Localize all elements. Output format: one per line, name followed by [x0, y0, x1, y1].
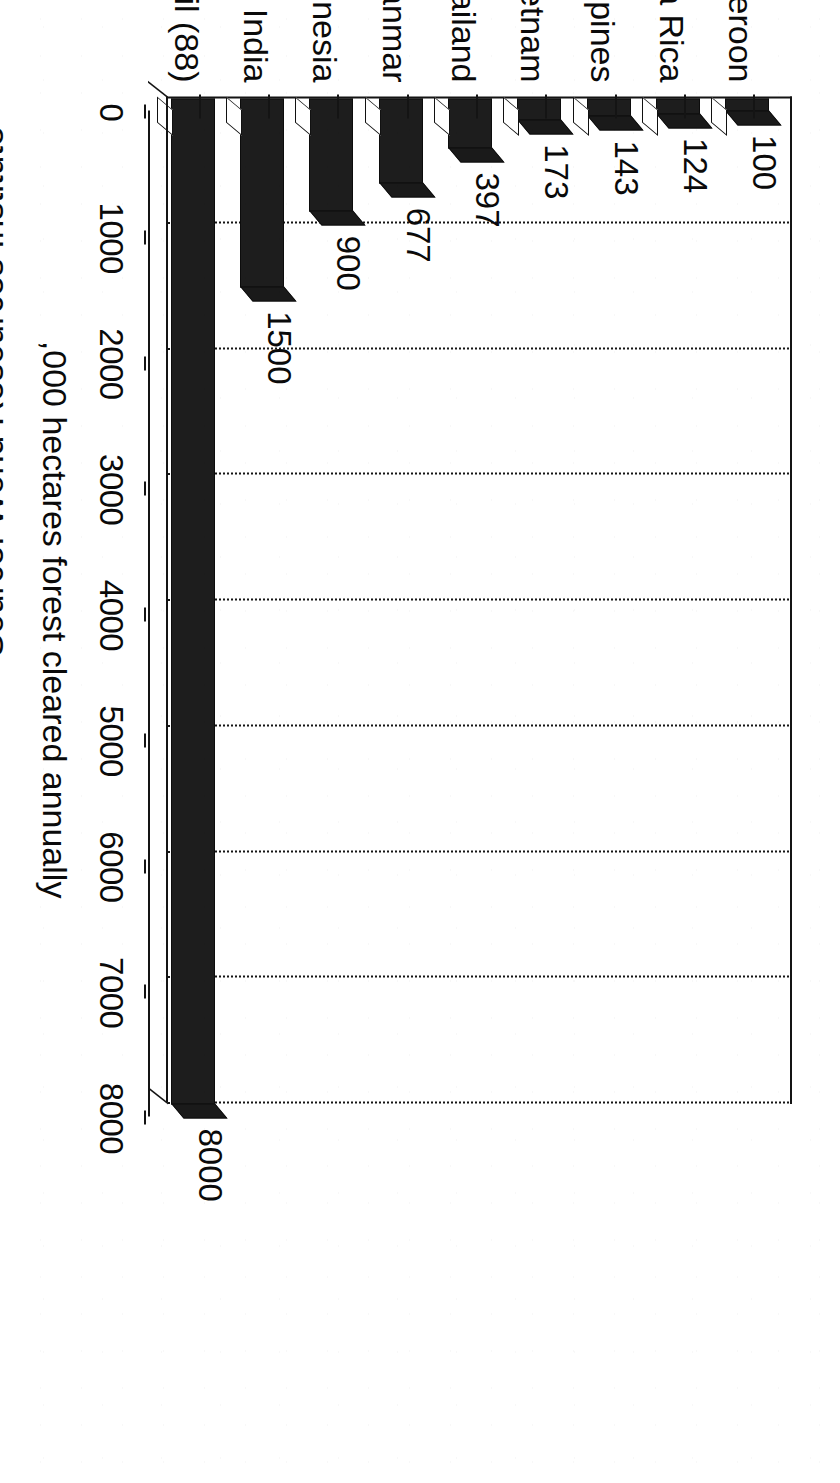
value-axis-tick	[144, 481, 146, 495]
value-axis-tick	[144, 607, 146, 621]
value-axis-tick	[144, 230, 146, 244]
axis-floor-left	[148, 80, 168, 98]
value-axis-tick	[144, 859, 146, 873]
value-axis-tick	[144, 356, 146, 370]
category-label: India	[239, 8, 273, 82]
bar-body	[448, 98, 492, 148]
bar	[587, 96, 639, 134]
value-axis-tick	[144, 984, 146, 998]
bar	[240, 96, 292, 305]
bar	[379, 96, 431, 201]
value-axis-tick-label: 3000	[95, 454, 128, 525]
category-axis-tick	[337, 94, 339, 118]
bar-body	[171, 98, 215, 1104]
value-axis-tick-label: 5000	[95, 705, 128, 776]
category-axis-tick	[199, 94, 201, 118]
value-axis-tick	[144, 104, 146, 118]
category-label: Philippines	[586, 0, 620, 82]
bar-value-label: 8000	[194, 1128, 227, 1201]
gridline	[168, 598, 792, 600]
bar	[517, 96, 569, 138]
bar-value-label: 100	[748, 135, 781, 190]
gridline	[168, 724, 792, 726]
chart-canvas: 10012414317339767790015008000 0100020003…	[0, 0, 840, 1483]
category-label: Vietnam	[516, 0, 550, 82]
category-label: Thailand	[447, 0, 481, 82]
value-axis-tick-label: 8000	[95, 1082, 128, 1153]
bar-body	[656, 98, 700, 114]
bar-depth-face	[517, 119, 574, 134]
bar-depth-face	[448, 147, 505, 162]
category-label: Myanmar	[378, 0, 412, 82]
category-label: Cameroon	[724, 0, 758, 82]
category-label: Brazil (88)	[170, 0, 204, 82]
bar	[656, 96, 708, 132]
value-axis-tick	[144, 733, 146, 747]
gridline	[168, 1101, 792, 1103]
bar-depth-face	[171, 1103, 228, 1118]
bar-value-label: 1500	[263, 311, 296, 384]
bar-depth-face	[240, 286, 297, 301]
bar	[309, 96, 361, 229]
bar-value-label: 173	[540, 144, 573, 199]
gridline	[168, 850, 792, 852]
value-axis-tick-label: 2000	[95, 328, 128, 399]
category-axis-tick	[545, 94, 547, 118]
value-axis-tick-label: 0	[95, 103, 128, 121]
axis-baseline	[166, 96, 168, 1102]
bar	[725, 96, 777, 129]
bar-body	[725, 98, 769, 111]
bar-body	[379, 98, 423, 183]
bar	[171, 96, 223, 1122]
bar-value-label: 677	[402, 207, 435, 262]
bar-value-label: 900	[332, 235, 365, 290]
bar	[448, 96, 500, 166]
bar-value-label: 397	[471, 172, 504, 227]
category-axis-tick	[615, 94, 617, 118]
category-label: Costa Rica	[655, 0, 689, 82]
bar-body	[587, 98, 631, 116]
axis-floor-right	[148, 1086, 168, 1104]
category-axis-tick	[753, 94, 755, 118]
bar-depth-face	[379, 182, 436, 197]
category-label: Indonesia	[308, 0, 342, 82]
category-axis-tick	[268, 94, 270, 118]
category-axis-tick	[407, 94, 409, 118]
value-axis-tick-label: 4000	[95, 579, 128, 650]
value-axis-tick	[144, 1110, 146, 1124]
value-axis-tick-label: 1000	[95, 202, 128, 273]
value-axis-tick-label: 6000	[95, 831, 128, 902]
value-axis-tick-label: 7000	[95, 957, 128, 1028]
value-axis-title: ,000 hectares forest cleared annually	[38, 340, 72, 898]
bar-value-label: 143	[610, 140, 643, 195]
bar-body	[309, 98, 353, 211]
bar-body	[517, 98, 561, 120]
bar-depth-face	[309, 210, 366, 225]
axis-baseline-back	[148, 110, 150, 1116]
category-axis-tick	[476, 94, 478, 118]
bar-value-label: 124	[679, 138, 712, 193]
gridline	[168, 975, 792, 977]
bar-body	[240, 98, 284, 287]
gridline	[168, 472, 792, 474]
source-note: Source: World Resources Institute	[0, 126, 8, 656]
category-axis-tick	[684, 94, 686, 118]
